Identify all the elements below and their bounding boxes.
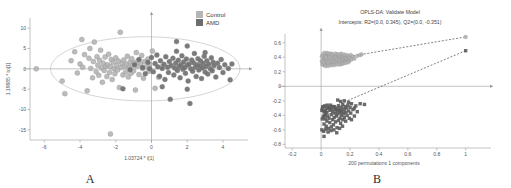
legend-label-amd: AMD — [206, 20, 219, 26]
data-point — [328, 121, 331, 124]
data-point — [194, 74, 199, 79]
data-point — [344, 119, 347, 122]
x-tick-label: 2 — [186, 144, 189, 150]
data-point — [137, 57, 142, 62]
data-point — [166, 70, 171, 75]
panel-a-legend: ControlAMD — [196, 11, 225, 26]
data-point — [120, 86, 125, 91]
data-point — [337, 104, 340, 107]
data-point — [160, 84, 165, 89]
data-point — [330, 113, 333, 116]
data-point — [321, 117, 324, 120]
legend-item-control[interactable]: Control — [196, 11, 225, 18]
data-point — [350, 102, 353, 105]
data-point — [347, 101, 350, 104]
x-tick-label: 1 — [464, 151, 467, 157]
figure-container: -6-4-20241050-5-10-151.03724 * t[1]1.196… — [0, 0, 511, 188]
data-point — [140, 65, 145, 70]
data-point — [174, 39, 179, 44]
data-point — [345, 114, 348, 117]
data-point — [34, 66, 39, 71]
data-point — [334, 108, 337, 111]
data-point — [80, 65, 85, 70]
data-point — [321, 105, 324, 108]
data-point — [162, 77, 167, 82]
data-point — [346, 60, 350, 64]
data-point — [328, 106, 331, 109]
data-point — [228, 77, 233, 82]
data-point — [345, 53, 349, 57]
data-point — [151, 69, 156, 74]
data-point — [339, 100, 342, 103]
data-point — [327, 117, 330, 120]
data-point — [96, 73, 101, 78]
data-point — [60, 79, 65, 84]
x-tick-label: 0 — [320, 151, 323, 157]
data-point — [86, 56, 91, 61]
chart-title: OPLS-DA: Validate Model — [360, 9, 420, 15]
x-tick-label: 0.6 — [404, 151, 411, 157]
data-point — [336, 98, 339, 101]
data-point — [326, 130, 329, 133]
data-point — [325, 119, 328, 122]
legend-label-control: Control — [206, 12, 225, 18]
data-point — [102, 68, 107, 73]
data-point — [125, 54, 130, 59]
data-point — [82, 52, 87, 57]
data-point — [98, 48, 103, 53]
y-axis-arrow-icon — [320, 28, 323, 31]
data-point — [353, 106, 356, 109]
panel-a-letter: A — [0, 172, 218, 187]
data-point — [356, 110, 359, 113]
y-tick-label: -10 — [19, 106, 26, 112]
data-point — [134, 50, 139, 55]
x-axis-arrow-icon — [490, 85, 493, 88]
y-tick-label: -0.2 — [272, 98, 281, 104]
data-point — [143, 71, 148, 76]
legend-swatch-amd-icon — [196, 19, 203, 26]
data-point — [322, 60, 326, 64]
data-point — [464, 49, 467, 52]
data-point — [349, 111, 352, 114]
data-point — [343, 99, 346, 102]
data-point — [185, 87, 190, 92]
series-r2-points — [320, 35, 468, 68]
y-axis-arrow-icon — [150, 12, 153, 15]
data-point — [324, 55, 328, 59]
data-point — [62, 91, 67, 96]
x-tick-label: -4 — [78, 144, 83, 150]
legend-swatch-control-icon — [196, 11, 203, 18]
legend-item-amd[interactable]: AMD — [196, 19, 225, 26]
data-point — [324, 127, 327, 130]
data-point — [170, 56, 175, 61]
data-point — [72, 49, 77, 54]
y-tick-label: 0 — [23, 66, 26, 72]
y-tick-label: -0.6 — [272, 127, 281, 133]
x-tick-label: -0.2 — [288, 151, 297, 157]
data-point — [92, 39, 97, 44]
data-point — [339, 109, 342, 112]
data-point — [155, 64, 160, 69]
data-point — [176, 58, 181, 63]
data-point — [88, 66, 93, 71]
data-point — [192, 51, 197, 56]
y-tick-label: 10 — [20, 25, 26, 31]
data-point — [179, 53, 184, 58]
data-point — [186, 79, 191, 84]
data-point — [185, 44, 190, 49]
data-point — [123, 70, 128, 75]
data-point — [213, 74, 218, 79]
data-point — [178, 75, 183, 80]
data-point — [150, 48, 155, 53]
data-point — [87, 46, 92, 51]
data-point — [90, 75, 95, 80]
chart-subtitle-intercepts: Intercepts: R2=(0.0, 0.345), Q2=(0.0, -0… — [339, 19, 442, 25]
y-tick-label: 5 — [23, 45, 26, 51]
data-point — [329, 129, 332, 132]
data-point — [118, 30, 123, 35]
data-point — [332, 123, 335, 126]
data-point — [332, 128, 335, 131]
data-point — [464, 35, 468, 39]
panel-b-validation-plot: OPLS-DA: Validate ModelIntercepts: R2=(0… — [255, 0, 511, 188]
data-point — [219, 57, 224, 62]
